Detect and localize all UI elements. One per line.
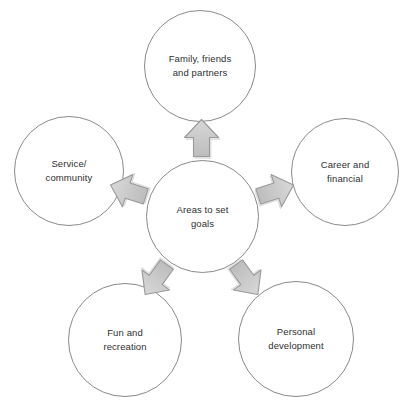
node-service-community: Service/ community [14, 116, 124, 226]
node-family: Family, friends and partners [144, 10, 256, 122]
node-personal-development-label: Personal development [262, 325, 330, 353]
arrow-to-family-icon [185, 120, 220, 159]
node-center-hub-label: Areas to set goals [171, 203, 235, 231]
node-personal-development: Personal development [238, 281, 354, 397]
goal-areas-diagram: Family, friends and partners Career and … [0, 0, 404, 403]
node-career-label: Career and financial [315, 158, 376, 186]
node-fun-recreation-label: Fun and recreation [97, 326, 152, 354]
node-center-hub: Areas to set goals [146, 160, 259, 273]
node-fun-recreation: Fun and recreation [68, 283, 182, 397]
node-service-community-label: Service/ community [40, 157, 99, 185]
node-family-label: Family, friends and partners [163, 52, 238, 80]
node-career: Career and financial [291, 118, 399, 226]
